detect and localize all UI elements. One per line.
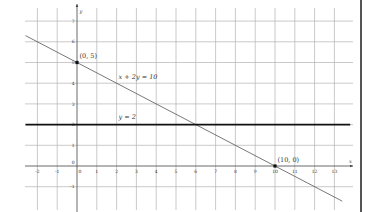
y-tick-label: 6 [72, 39, 75, 44]
line-annotations: x + 2y = 10y = 2 [118, 73, 158, 121]
x-tick-label: 10 [272, 169, 278, 174]
grid-lines [25, 8, 353, 210]
x-tick-label: 8 [234, 169, 237, 174]
x-tick-label: 12 [312, 169, 318, 174]
x-axis-arrow-icon [350, 165, 353, 168]
labeled-points: (0, 5)(10, 0) [75, 52, 299, 168]
x-tick-label: -2 [35, 169, 40, 174]
coordinate-plane: xy -2-1012345678910111213-101234567 (0, … [0, 0, 372, 212]
right-border [360, 0, 362, 212]
point-label: (10, 0) [278, 156, 300, 164]
x-tick-label: 13 [332, 169, 338, 174]
y-tick-label: 7 [72, 19, 75, 24]
x-axis-label: x [349, 158, 352, 164]
point-marker [75, 61, 78, 64]
x-tick-label: 4 [155, 169, 158, 174]
y-tick-label: -1 [70, 184, 75, 189]
x-tick-label: 2 [115, 169, 118, 174]
y-tick-label: 1 [72, 143, 75, 148]
x-tick-label: 6 [194, 169, 197, 174]
x-tick-label: 11 [292, 169, 298, 174]
x-tick-label: -1 [55, 169, 60, 174]
y-tick-label: 4 [72, 81, 75, 86]
x-tick-label: 7 [214, 169, 217, 174]
y-tick-label: 0 [72, 160, 75, 165]
x-tick-label: 9 [254, 169, 257, 174]
x-tick-label: 5 [175, 169, 178, 174]
y-axis-arrow-icon [76, 4, 79, 7]
y-axis-label: y [79, 8, 83, 15]
annotation-y-eq-2: y = 2 [118, 113, 136, 121]
x-tick-label: 3 [135, 169, 138, 174]
y-tick-label: 3 [72, 102, 75, 107]
x-tick-label: 0 [79, 169, 82, 174]
x-tick-label: 1 [95, 169, 98, 174]
point-label: (0, 5) [80, 52, 98, 60]
point-marker [273, 164, 276, 167]
annotation-x-plus-2y-eq-10: x + 2y = 10 [119, 73, 158, 81]
